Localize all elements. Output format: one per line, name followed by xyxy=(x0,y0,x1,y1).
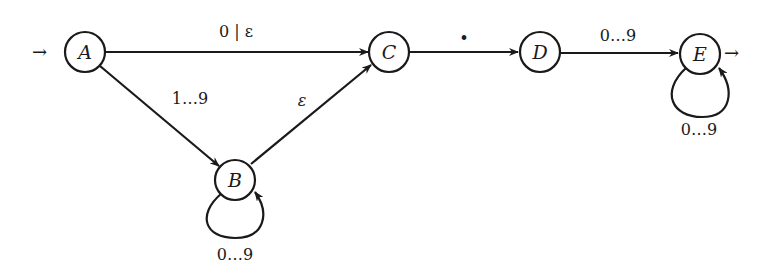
edge-b-loop-label: 0…9 xyxy=(217,245,253,264)
node-a: A xyxy=(65,32,105,72)
edge-a-c-label: 0 | ε xyxy=(219,22,253,41)
edge-e-loop-label: 0…9 xyxy=(681,120,717,139)
node-c: C xyxy=(369,32,409,72)
automaton-diagram: → A B C D E → 0 | ε 1…9 0…9 ε • 0…9 0…9 xyxy=(0,0,781,280)
node-d: D xyxy=(520,32,560,72)
node-a-label: A xyxy=(76,41,92,63)
node-b: B xyxy=(215,160,255,200)
node-c-label: C xyxy=(382,41,397,63)
node-e-label: E xyxy=(692,43,707,65)
edge-d-e-label: 0…9 xyxy=(600,26,636,45)
node-d-label: D xyxy=(531,41,547,63)
edge-b-to-c xyxy=(251,65,371,164)
start-arrow-icon: → xyxy=(32,41,47,62)
edge-a-to-b xyxy=(100,66,219,166)
edge-b-c-label: ε xyxy=(298,91,307,110)
node-b-label: B xyxy=(227,169,242,191)
edge-c-d-label: • xyxy=(459,29,468,48)
edge-a-b-label: 1…9 xyxy=(172,89,208,108)
accept-arrow-icon: → xyxy=(724,42,739,63)
node-e: E xyxy=(680,34,720,74)
edge-e-loop xyxy=(672,68,729,117)
